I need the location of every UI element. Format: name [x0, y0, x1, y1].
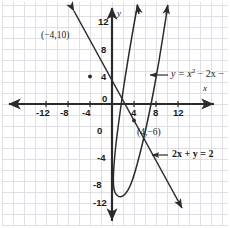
parabola-eq-part1: y = x	[171, 68, 192, 79]
parabola-arrow-left	[137, 5, 139, 15]
point-marker-b	[132, 119, 136, 123]
y-tick-label-8: 8	[101, 45, 106, 55]
x-tick-label-12: 12	[173, 108, 184, 118]
x-tick-label-neg8: -8	[60, 108, 68, 118]
point-marker-a	[88, 75, 92, 79]
x-tick-label-0: 0	[102, 94, 107, 104]
parabola-equation-label: y = x2 − 2x −	[171, 69, 224, 79]
parabola-arrow-right	[166, 5, 168, 15]
graph-figure: x y -12 -8 -4 0 4 8 12 12 8 4 0 -4 -8 -1…	[0, 0, 230, 228]
y-tick-label-neg12: -8	[93, 180, 101, 190]
x-tick-label-neg4: -4	[82, 108, 90, 118]
line-equation-label: 2x + y = 2	[172, 149, 213, 159]
coordinate-plane	[0, 0, 230, 228]
parabola-eq-part2: − 2x −	[195, 68, 224, 79]
y-tick-label-neg16: -12	[93, 198, 107, 208]
point-label-a: (−4,10)	[41, 31, 69, 41]
x-tick-label-8: 8	[153, 108, 158, 118]
y-axis-label: y	[117, 9, 121, 18]
x-tick-label-neg12: -12	[36, 108, 50, 118]
x-axis-label: x	[203, 84, 207, 93]
y-tick-label-12: 12	[98, 17, 109, 27]
y-tick-label-neg4: 0	[97, 126, 102, 136]
x-tick-label-4: 4	[131, 108, 136, 118]
y-tick-label-4: 4	[101, 72, 106, 82]
y-tick-label-neg8: -4	[97, 153, 105, 163]
point-label-b: (4,−6)	[137, 128, 161, 138]
